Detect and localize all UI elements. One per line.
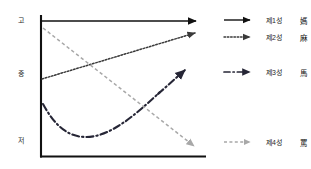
legend-hanzi-tone-2: 麻 <box>300 32 307 43</box>
series-line-tone-2 <box>42 33 195 79</box>
legend-label-tone-4: 제4성 <box>266 137 292 147</box>
y-axis-label-high: 고 <box>18 17 24 24</box>
legend-item-tone-3: 제3성 馬 mǎ <box>222 66 311 78</box>
y-axis-label-mid: 중 <box>18 70 24 77</box>
legend-item-tone-2: 제2성 麻 má <box>222 31 311 43</box>
legend-hanzi-tone-3: 馬 <box>300 67 307 78</box>
legend-swatch-tone-3 <box>222 67 260 77</box>
legend-hanzi-tone-4: 罵 <box>300 137 307 148</box>
legend-swatch-tone-1 <box>222 15 260 25</box>
series-line-tone-3-arrow <box>158 70 185 94</box>
legend-item-tone-4: 제4성 罵 mà <box>222 136 311 148</box>
legend-swatch-tone-4 <box>222 137 260 147</box>
series-line-tone-4 <box>43 28 194 146</box>
series-line-tone-3 <box>43 92 160 137</box>
y-axis-label-low: 저 <box>18 137 24 144</box>
legend-item-tone-1: 제1성 媽 mā <box>222 14 311 26</box>
legend-swatch-tone-2 <box>222 32 260 42</box>
legend-label-tone-2: 제2성 <box>266 32 292 42</box>
legend-label-tone-3: 제3성 <box>266 67 292 77</box>
legend-hanzi-tone-1: 媽 <box>300 15 307 26</box>
legend-label-tone-1: 제1성 <box>266 15 292 25</box>
